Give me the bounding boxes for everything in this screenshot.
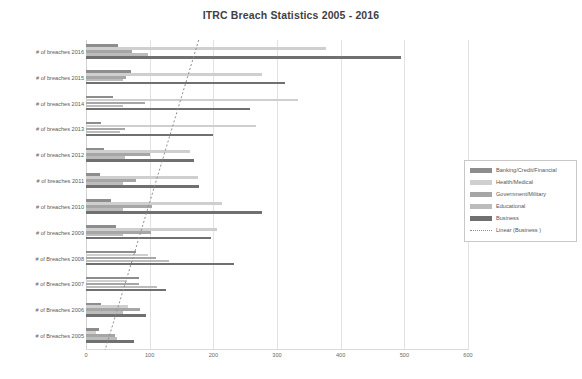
bar-group bbox=[86, 70, 468, 84]
x-tick-label-0: 0 bbox=[84, 352, 87, 358]
plot-area bbox=[86, 40, 468, 350]
y-tick-label: # of breaches 2015 bbox=[0, 75, 84, 82]
bar bbox=[86, 237, 211, 240]
y-tick-label: # of Breaches 2006 bbox=[0, 307, 84, 314]
chart-legend: Banking/Credit/FinancialHealth/MedicalGo… bbox=[464, 160, 577, 242]
legend-label: Linear (Business ) bbox=[496, 227, 541, 234]
bar bbox=[86, 211, 262, 214]
legend-label: Business bbox=[496, 215, 519, 222]
bar-group bbox=[86, 303, 468, 317]
legend-item[interactable]: Linear (Business ) bbox=[470, 225, 572, 236]
x-tick-label-100: 100 bbox=[145, 352, 154, 358]
legend-item[interactable]: Government/Military bbox=[470, 189, 572, 200]
bar-group bbox=[86, 199, 468, 213]
y-tick-label: # of Breaches 2005 bbox=[0, 333, 84, 340]
y-axis-labels: # of breaches 2016# of breaches 2015# of… bbox=[0, 40, 84, 350]
bar bbox=[86, 289, 166, 292]
bar bbox=[86, 314, 146, 317]
legend-swatch-icon bbox=[470, 216, 492, 221]
y-tick-label: # of Breaches 2008 bbox=[0, 256, 84, 263]
legend-item[interactable]: Banking/Credit/Financial bbox=[470, 165, 572, 176]
legend-item[interactable]: Business bbox=[470, 213, 572, 224]
legend-swatch-icon bbox=[470, 230, 492, 231]
bar-group bbox=[86, 173, 468, 187]
legend-label: Health/Medical bbox=[496, 179, 533, 186]
x-tick-label-600: 600 bbox=[463, 352, 472, 358]
y-tick-label: # of breaches 2010 bbox=[0, 204, 84, 211]
bar bbox=[86, 134, 213, 137]
bar bbox=[86, 263, 234, 266]
bar-group bbox=[86, 122, 468, 136]
y-tick-label: # of Breaches 2007 bbox=[0, 281, 84, 288]
bar bbox=[86, 108, 250, 111]
bar bbox=[86, 185, 199, 188]
x-tick-label-200: 200 bbox=[209, 352, 218, 358]
y-tick-label: # of breaches 2009 bbox=[0, 230, 84, 237]
x-axis-labels: 0100200300400500600 bbox=[86, 352, 468, 366]
legend-item[interactable]: Health/Medical bbox=[470, 177, 572, 188]
bar-group bbox=[86, 328, 468, 342]
bar-group bbox=[86, 225, 468, 239]
legend-swatch-icon bbox=[470, 204, 492, 209]
y-tick-label: # of breaches 2012 bbox=[0, 152, 84, 159]
bar bbox=[86, 82, 285, 85]
x-axis-line bbox=[86, 349, 468, 350]
legend-label: Government/Military bbox=[496, 191, 546, 198]
y-tick-label: # of breaches 2013 bbox=[0, 126, 84, 133]
bar-group bbox=[86, 96, 468, 110]
y-tick-label: # of breaches 2014 bbox=[0, 101, 84, 108]
legend-swatch-icon bbox=[470, 180, 492, 185]
legend-item[interactable]: Educational bbox=[470, 201, 572, 212]
chart-title: ITRC Breach Statistics 2005 - 2016 bbox=[0, 9, 582, 21]
y-tick-label: # of breaches 2011 bbox=[0, 178, 84, 185]
x-tick-label-300: 300 bbox=[272, 352, 281, 358]
bar bbox=[86, 56, 401, 59]
bar-group bbox=[86, 251, 468, 265]
y-tick-label: # of breaches 2016 bbox=[0, 49, 84, 56]
bar bbox=[86, 159, 194, 162]
x-tick-label-400: 400 bbox=[336, 352, 345, 358]
chart-container: ITRC Breach Statistics 2005 - 2016 # of … bbox=[0, 0, 582, 379]
legend-label: Banking/Credit/Financial bbox=[496, 167, 557, 174]
legend-swatch-icon bbox=[470, 168, 492, 173]
legend-swatch-icon bbox=[470, 192, 492, 197]
bar-group bbox=[86, 44, 468, 58]
bar-group bbox=[86, 148, 468, 162]
bar-group bbox=[86, 277, 468, 291]
bar bbox=[86, 340, 134, 343]
x-tick-label-500: 500 bbox=[400, 352, 409, 358]
legend-label: Educational bbox=[496, 203, 525, 210]
